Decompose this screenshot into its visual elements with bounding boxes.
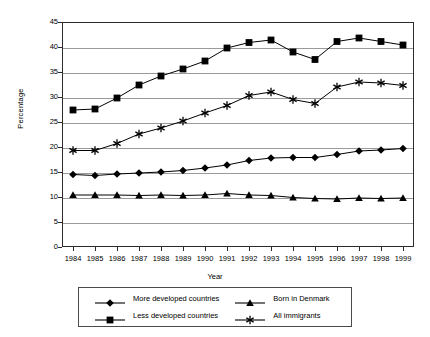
chart-figure: 051015202530354045 Percentage 1984198519…: [0, 0, 430, 337]
legend-label: All immigrants: [273, 311, 320, 320]
x-tick-mark: [227, 247, 228, 251]
legend-entry[interactable]: Less developed countries: [79, 311, 219, 321]
y-tick-label: 30: [36, 93, 58, 101]
legend-entry[interactable]: Born in Denmark: [219, 294, 351, 304]
x-tick-mark: [117, 247, 118, 251]
y-tick-mark: [58, 197, 62, 198]
x-tick-mark: [73, 247, 74, 251]
x-tick-mark: [205, 247, 206, 251]
y-tick-mark: [58, 222, 62, 223]
y-tick-mark: [58, 122, 62, 123]
y-tick-label: 45: [36, 18, 58, 26]
y-tick-label: 5: [36, 218, 58, 226]
y-tick-mark: [58, 97, 62, 98]
y-axis: 051015202530354045: [32, 0, 58, 337]
plot-area: [62, 22, 414, 247]
chart-legend: More developed countriesBorn in DenmarkL…: [78, 287, 352, 327]
legend-diamond-icon: [93, 294, 127, 304]
gridline: [63, 98, 413, 99]
x-tick-mark: [337, 247, 338, 251]
gridline: [63, 123, 413, 124]
gridline: [63, 73, 413, 74]
x-tick-mark: [161, 247, 162, 251]
legend-asterisk-icon: [233, 311, 267, 321]
y-tick-mark: [58, 47, 62, 48]
legend-entry[interactable]: All immigrants: [219, 311, 351, 321]
x-tick-mark: [139, 247, 140, 251]
y-tick-mark: [58, 172, 62, 173]
legend-square-icon: [93, 311, 127, 321]
x-tick-mark: [271, 247, 272, 251]
y-tick-mark: [58, 247, 62, 248]
gridline: [63, 48, 413, 49]
x-tick-mark: [359, 247, 360, 251]
y-tick-label: 20: [36, 143, 58, 151]
y-tick-mark: [58, 147, 62, 148]
legend-triangle-icon: [233, 294, 267, 304]
legend-label: More developed countries: [133, 294, 219, 303]
gridline: [63, 173, 413, 174]
gridline: [63, 223, 413, 224]
legend-entry[interactable]: More developed countries: [79, 294, 219, 304]
x-tick-mark: [381, 247, 382, 251]
x-tick-mark: [403, 247, 404, 251]
x-axis-title: Year: [0, 272, 430, 281]
y-tick-label: 10: [36, 193, 58, 201]
legend-label: Born in Denmark: [273, 294, 329, 303]
y-tick-label: 15: [36, 168, 58, 176]
x-tick-label: 1999: [386, 254, 420, 263]
legend-label: Less developed countries: [133, 311, 218, 320]
gridline: [63, 198, 413, 199]
y-tick-mark: [58, 72, 62, 73]
x-tick-mark: [183, 247, 184, 251]
y-tick-label: 25: [36, 118, 58, 126]
x-tick-mark: [249, 247, 250, 251]
x-tick-mark: [95, 247, 96, 251]
y-tick-label: 0: [36, 243, 58, 251]
x-tick-mark: [293, 247, 294, 251]
y-tick-label: 35: [36, 68, 58, 76]
y-axis-title: Percentage: [16, 74, 25, 144]
y-tick-label: 40: [36, 43, 58, 51]
y-tick-mark: [58, 22, 62, 23]
gridline: [63, 148, 413, 149]
x-tick-mark: [315, 247, 316, 251]
